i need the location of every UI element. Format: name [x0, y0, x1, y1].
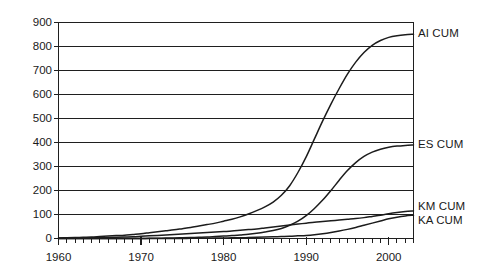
x-axis-label-1980: 1980: [194, 252, 254, 264]
y-axis-label-300: 300: [6, 161, 52, 173]
y-axis-label-700: 700: [6, 65, 52, 77]
gridlines-group: [59, 23, 414, 239]
series-line-es-cum: [59, 145, 414, 239]
x-axis-label-2000: 2000: [359, 252, 419, 264]
series-label-es: ES CUM: [418, 139, 463, 151]
series-label-km: KM CUM: [418, 201, 465, 213]
y-axis-label-500: 500: [6, 113, 52, 125]
cumulative-publications-line-chart: 9008007006005004003002001000 19601970198…: [0, 0, 477, 275]
y-axis-label-0: 0: [6, 233, 52, 245]
series-lines-group: [59, 34, 414, 238]
series-label-ka: KA CUM: [418, 215, 463, 227]
y-axis-label-100: 100: [6, 209, 52, 221]
y-axis-label-600: 600: [6, 89, 52, 101]
y-axis-label-800: 800: [6, 41, 52, 53]
series-label-ai: AI CUM: [418, 28, 459, 40]
y-axis-label-400: 400: [6, 137, 52, 149]
series-line-ai-cum: [59, 34, 414, 238]
x-axis-label-1990: 1990: [276, 252, 336, 264]
plot-frame: [59, 23, 414, 239]
x-axis-label-1960: 1960: [29, 252, 89, 264]
y-axis-label-900: 900: [6, 17, 52, 29]
chart-canvas: [0, 0, 477, 275]
x-axis-label-1970: 1970: [111, 252, 171, 264]
y-axis-label-200: 200: [6, 185, 52, 197]
